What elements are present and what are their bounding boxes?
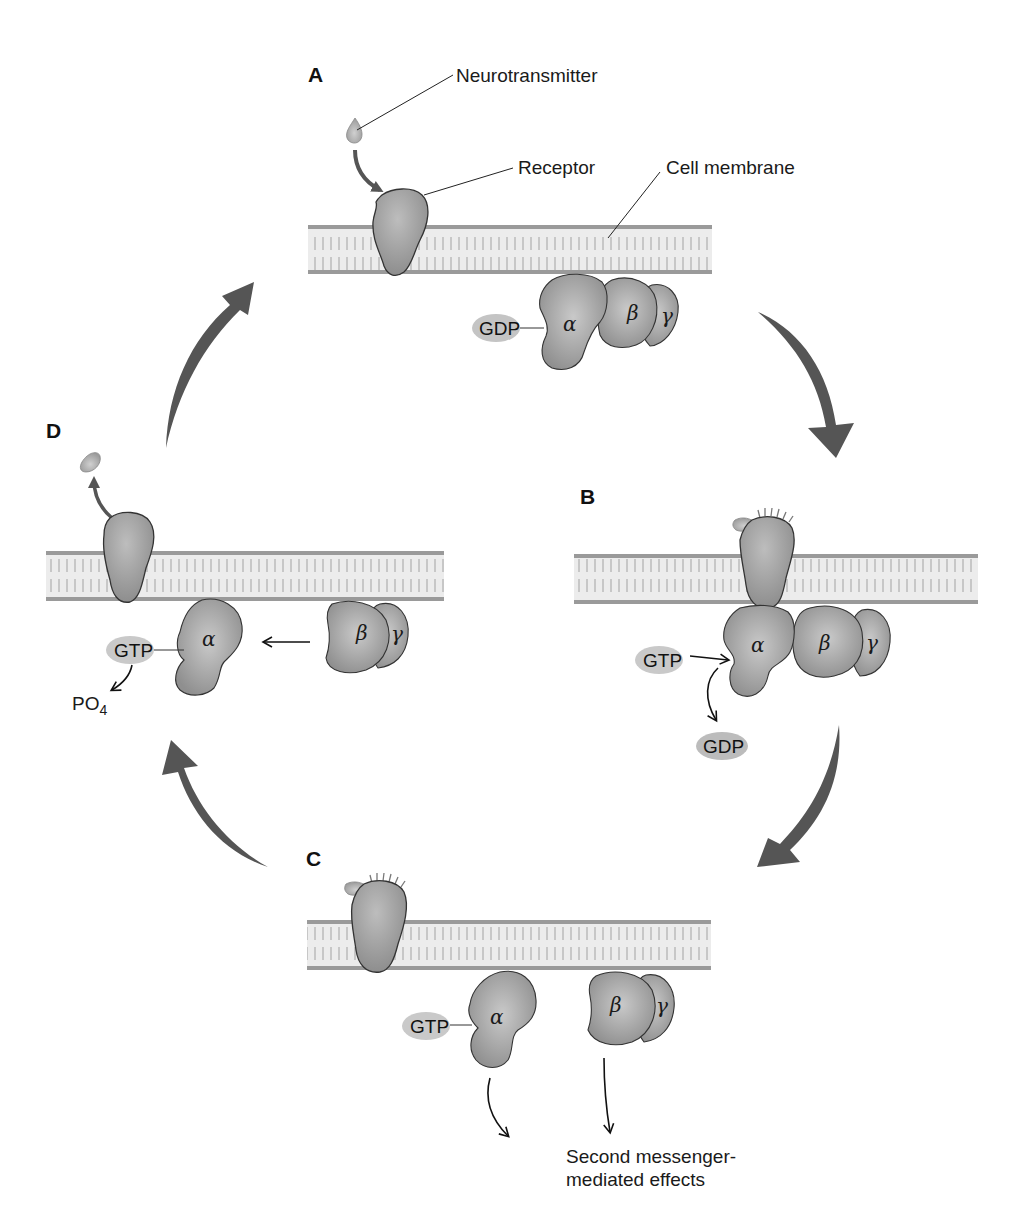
beta-label: β <box>626 301 639 325</box>
cycle-arrow-d-to-a-icon <box>166 282 254 448</box>
svg-text:GDP: GDP <box>703 736 744 757</box>
released-ligand-d <box>80 453 100 472</box>
gpcr-cycle-diagram: A α β γ GDP Neurotransmitter <box>0 0 1026 1221</box>
gamma-label: γ <box>391 622 403 646</box>
alpha-label: α <box>751 633 765 657</box>
alpha-label: α <box>490 1005 504 1029</box>
panel-b: B α β γ GTP GDP <box>574 485 978 760</box>
neurotransmitter-ligand <box>347 118 362 143</box>
gdp-pill-a: GDP <box>472 314 544 342</box>
g-betagamma-d: β γ <box>326 601 408 672</box>
g-alpha-d: α <box>176 599 243 695</box>
panel-a: A α β γ GDP Neurotransmitter <box>308 63 795 369</box>
betagamma-effect-arrow-icon <box>604 1058 610 1132</box>
hydrolysis-arrow-icon <box>112 665 132 690</box>
gtp-pill-b: GTP <box>635 646 683 674</box>
gtp-pill-c: GTP <box>402 1012 472 1040</box>
gamma-label: γ <box>661 304 673 328</box>
gamma-label: γ <box>866 631 878 655</box>
panel-a-label: A <box>308 63 323 86</box>
g-betagamma-c: β γ <box>588 972 674 1045</box>
panel-b-label: B <box>580 485 595 508</box>
cycle-arrow-b-to-c-icon <box>757 725 839 867</box>
beta-label: β <box>355 621 368 645</box>
cycle-arrow-c-to-d-icon <box>162 740 268 867</box>
receptor-label: Receptor <box>518 157 596 178</box>
gdp-out-arrow-icon <box>708 668 718 720</box>
neurotransmitter-label: Neurotransmitter <box>456 65 598 86</box>
svg-text:GDP: GDP <box>479 318 520 339</box>
alpha-label: α <box>202 627 216 651</box>
panel-d-label: D <box>46 419 61 442</box>
second-messenger-label-line1: Second messenger- <box>566 1146 736 1167</box>
gtp-pill-d: GTP <box>106 636 184 664</box>
panel-c: C α GTP β γ Second messenge <box>306 847 736 1190</box>
svg-text:GTP: GTP <box>114 640 153 661</box>
cycle-arrow-a-to-b-icon <box>758 312 854 458</box>
panel-d: D α GTP PO4 β γ <box>46 419 444 718</box>
g-protein-b: α β γ <box>724 605 891 696</box>
gtp-in-arrow-icon <box>690 656 728 660</box>
release-arrow-icon <box>94 480 112 518</box>
svg-text:GTP: GTP <box>410 1016 449 1037</box>
gdp-pill-b: GDP <box>696 732 748 760</box>
alpha-effect-arrow-icon <box>488 1078 508 1136</box>
panel-c-label: C <box>306 847 321 870</box>
g-protein-a: α β γ <box>540 274 679 369</box>
beta-label: β <box>818 631 831 655</box>
second-messenger-label-line2: mediated effects <box>566 1169 705 1190</box>
membrane-a <box>308 225 712 274</box>
binding-arrow-icon <box>355 150 380 190</box>
alpha-label: α <box>563 312 577 336</box>
gamma-label: γ <box>656 994 668 1018</box>
phosphate-label: PO4 <box>72 693 107 718</box>
beta-label: β <box>609 993 622 1017</box>
cell-membrane-label: Cell membrane <box>666 157 795 178</box>
svg-text:GTP: GTP <box>643 650 682 671</box>
g-alpha-c: α <box>469 971 536 1067</box>
